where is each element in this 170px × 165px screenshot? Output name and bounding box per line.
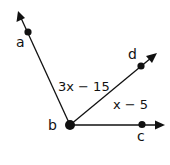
angle-dbc-label: x − 5 [113,97,148,112]
vertex-b-label: b [48,117,57,133]
angle-diagram-svg: a d c b 3x − 15 x − 5 [0,0,170,165]
point-d-dot [137,62,144,69]
vertex-b-dot [65,120,75,130]
ray-ba: a [16,11,70,125]
angle-diagram: a d c b 3x − 15 x − 5 [0,0,170,165]
point-d-label: d [128,46,137,62]
arrowhead-icon [17,11,26,22]
point-c-label: c [137,128,145,144]
point-a-dot [24,28,31,35]
ray-bc: c [70,121,165,145]
point-a-label: a [16,34,25,50]
angle-abd-label: 3x − 15 [58,79,110,94]
arrowhead-icon [155,121,165,130]
